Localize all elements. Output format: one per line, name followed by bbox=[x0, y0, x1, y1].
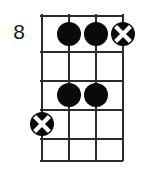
fret-line-2 bbox=[40, 80, 123, 82]
chord-diagram: 8 bbox=[0, 0, 148, 170]
dot-string2-fret3 bbox=[57, 83, 81, 107]
fret-line-1 bbox=[40, 51, 123, 53]
fret-line-5 bbox=[40, 160, 123, 162]
fret-line-4 bbox=[40, 138, 123, 140]
x-marker-icon-string4-fret1 bbox=[111, 22, 135, 46]
fret-line-top bbox=[40, 15, 123, 17]
x-marker-icon-string1-fret4 bbox=[30, 112, 54, 136]
fret-line-3 bbox=[40, 109, 123, 111]
dot-string3-fret1 bbox=[84, 22, 108, 46]
dot-string3-fret3 bbox=[84, 83, 108, 107]
fretboard-grid bbox=[40, 14, 123, 161]
fret-position-number: 8 bbox=[4, 21, 34, 42]
string-line-1 bbox=[41, 14, 43, 161]
dot-string2-fret1 bbox=[57, 22, 81, 46]
